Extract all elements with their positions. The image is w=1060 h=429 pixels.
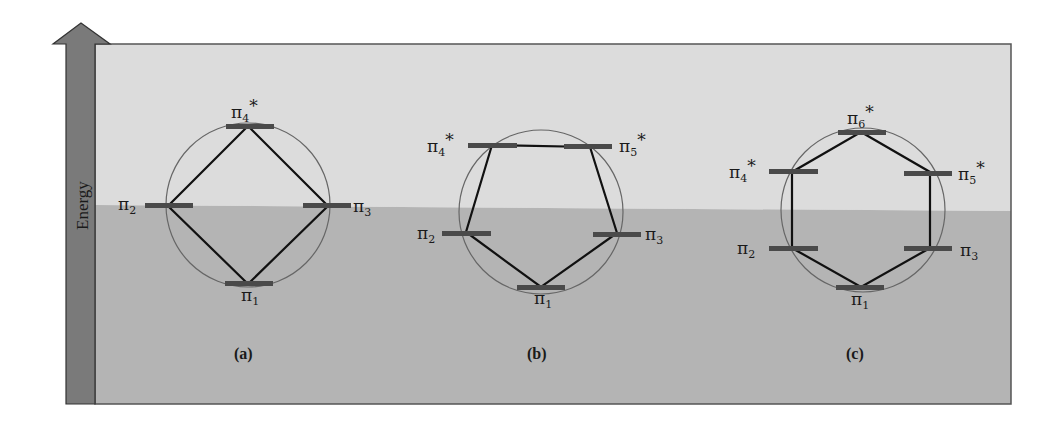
level-bar-pi2	[442, 231, 491, 236]
caption-c: (c)	[846, 345, 864, 363]
level-bar-pi2	[145, 203, 193, 208]
caption-b: (b)	[527, 345, 547, 363]
frost-circle-diagram: Energy π4* π2 π3 π1 (a) π4* π5* π2 π3 π1…	[0, 0, 1060, 429]
background-panel	[95, 44, 1011, 404]
level-bar-pi5	[904, 171, 952, 176]
level-bar-pi4	[226, 124, 274, 129]
level-bar-pi3	[904, 246, 952, 251]
level-bar-pi5	[564, 144, 612, 149]
caption-a: (a)	[234, 345, 253, 363]
level-bar-pi4	[769, 169, 818, 174]
level-bar-pi3	[303, 203, 351, 208]
level-bar-pi3	[593, 232, 641, 237]
level-bar-pi2	[769, 246, 818, 251]
lower-band	[95, 205, 1011, 404]
level-bar-pi4	[468, 143, 517, 148]
energy-axis-label: Energy	[73, 181, 92, 230]
